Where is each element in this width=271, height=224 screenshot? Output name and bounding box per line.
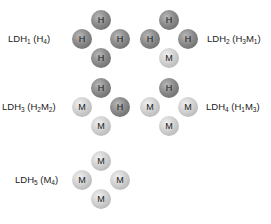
subunit-H: H — [159, 10, 179, 30]
subunit-H: H — [178, 29, 198, 49]
subunit-M: M — [91, 151, 111, 171]
isozyme-label: LDH4 (H1M3) — [206, 101, 260, 113]
subunit-M: M — [72, 97, 92, 117]
subunit-M: M — [110, 170, 130, 190]
subunit-H: H — [110, 29, 130, 49]
isozyme-label: LDH3 (H2M2) — [2, 101, 56, 113]
subunit-M: M — [91, 189, 111, 209]
subunit-M: M — [91, 116, 111, 136]
subunit-M: M — [159, 48, 179, 68]
subunit-M: M — [72, 170, 92, 190]
isozyme-label: LDH5 (M4) — [15, 174, 58, 186]
isozyme-label: LDH2 (H3M1) — [207, 33, 261, 45]
subunit-H: H — [91, 10, 111, 30]
subunit-H: H — [110, 97, 130, 117]
subunit-H: H — [72, 29, 92, 49]
isozyme-label: LDH1 (H4) — [8, 33, 50, 45]
subunit-M: M — [140, 97, 160, 117]
subunit-M: M — [159, 116, 179, 136]
subunit-M: M — [178, 97, 198, 117]
subunit-H: H — [159, 78, 179, 98]
subunit-H: H — [140, 29, 160, 49]
subunit-H: H — [91, 48, 111, 68]
subunit-H: H — [91, 78, 111, 98]
